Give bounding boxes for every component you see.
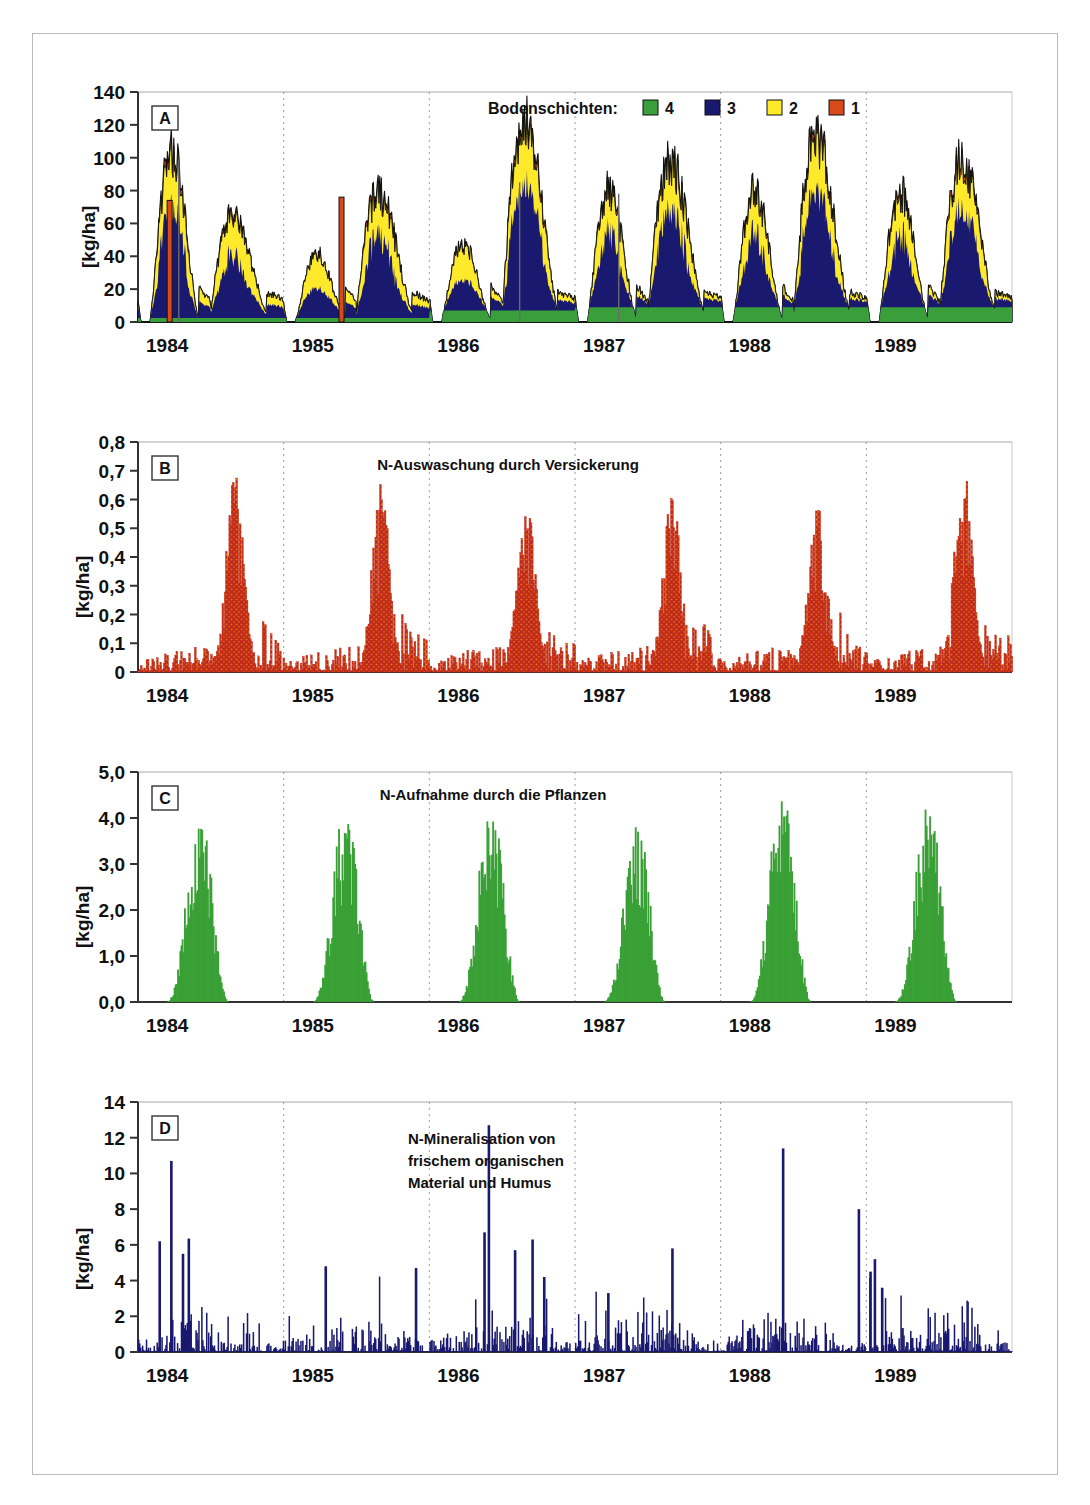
- panel-c: 0,01,02,03,04,05,01984198519861987198819…: [60, 758, 1020, 1038]
- svg-text:1984: 1984: [146, 1365, 189, 1386]
- svg-text:6: 6: [114, 1235, 125, 1256]
- svg-text:1987: 1987: [583, 1015, 625, 1036]
- svg-text:8: 8: [114, 1199, 125, 1220]
- svg-text:1985: 1985: [292, 1015, 335, 1036]
- svg-text:1988: 1988: [729, 685, 771, 706]
- svg-text:2: 2: [789, 100, 798, 117]
- svg-text:1986: 1986: [437, 335, 479, 356]
- svg-text:N-Mineralisation von: N-Mineralisation von: [408, 1130, 556, 1147]
- svg-text:C: C: [159, 790, 171, 807]
- svg-text:1988: 1988: [729, 335, 771, 356]
- svg-text:N-Aufnahme durch die Pflanzen: N-Aufnahme durch die Pflanzen: [380, 786, 607, 803]
- svg-text:20: 20: [104, 279, 125, 300]
- panel-d-ylabel: [kg/ha]: [72, 1228, 94, 1290]
- svg-text:frischem organischen: frischem organischen: [408, 1152, 564, 1169]
- svg-text:Material und Humus: Material und Humus: [408, 1174, 551, 1191]
- svg-text:40: 40: [104, 246, 125, 267]
- svg-text:60: 60: [104, 213, 125, 234]
- panel-a-ylabel: [kg/ha]: [78, 206, 100, 268]
- svg-text:1985: 1985: [292, 1365, 335, 1386]
- svg-text:10: 10: [104, 1163, 125, 1184]
- svg-text:3: 3: [727, 100, 736, 117]
- svg-text:1987: 1987: [583, 1365, 625, 1386]
- panel-b-svg: 00,10,20,30,40,50,60,70,8198419851986198…: [60, 428, 1020, 708]
- svg-text:4: 4: [665, 100, 674, 117]
- svg-text:1989: 1989: [874, 685, 916, 706]
- svg-text:0,1: 0,1: [99, 633, 126, 654]
- panel-a: 0204060801001201401984198519861987198819…: [60, 78, 1020, 358]
- svg-text:2: 2: [114, 1306, 125, 1327]
- svg-text:5,0: 5,0: [99, 762, 125, 783]
- svg-text:1984: 1984: [146, 685, 189, 706]
- svg-text:120: 120: [93, 115, 125, 136]
- panel-d: 02468101214198419851986198719881989DN-Mi…: [60, 1088, 1020, 1388]
- svg-text:1985: 1985: [292, 685, 335, 706]
- svg-text:0,6: 0,6: [99, 490, 125, 511]
- svg-text:A: A: [159, 110, 171, 127]
- panel-c-svg: 0,01,02,03,04,05,01984198519861987198819…: [60, 758, 1020, 1038]
- panel-a-svg: 0204060801001201401984198519861987198819…: [60, 78, 1020, 358]
- svg-text:1989: 1989: [874, 1015, 916, 1036]
- svg-text:1988: 1988: [729, 1015, 771, 1036]
- svg-text:1986: 1986: [437, 1365, 479, 1386]
- figure-page: 0204060801001201401984198519861987198819…: [0, 0, 1090, 1505]
- svg-text:0,5: 0,5: [99, 518, 126, 539]
- svg-text:100: 100: [93, 148, 125, 169]
- svg-text:1986: 1986: [437, 685, 479, 706]
- svg-text:14: 14: [104, 1092, 126, 1113]
- svg-text:1989: 1989: [874, 1365, 916, 1386]
- panel-b: 00,10,20,30,40,50,60,70,8198419851986198…: [60, 428, 1020, 708]
- panel-c-ylabel: [kg/ha]: [72, 886, 94, 948]
- svg-text:140: 140: [93, 82, 125, 103]
- svg-text:0: 0: [114, 1342, 125, 1363]
- svg-text:1,0: 1,0: [99, 946, 125, 967]
- svg-text:1984: 1984: [146, 335, 189, 356]
- svg-text:N-Auswaschung durch Versickeru: N-Auswaschung durch Versickerung: [377, 456, 639, 473]
- svg-text:Bodenschichten:: Bodenschichten:: [488, 100, 618, 117]
- svg-text:0: 0: [114, 662, 125, 683]
- svg-text:0,3: 0,3: [99, 576, 125, 597]
- svg-text:2,0: 2,0: [99, 900, 125, 921]
- panel-d-svg: 02468101214198419851986198719881989DN-Mi…: [60, 1088, 1020, 1388]
- svg-text:0,7: 0,7: [99, 461, 125, 482]
- svg-text:1986: 1986: [437, 1015, 479, 1036]
- svg-text:1985: 1985: [292, 335, 335, 356]
- svg-text:1984: 1984: [146, 1015, 189, 1036]
- svg-text:1989: 1989: [874, 335, 916, 356]
- svg-text:4: 4: [114, 1271, 125, 1292]
- panel-b-ylabel: [kg/ha]: [72, 556, 94, 618]
- svg-text:4,0: 4,0: [99, 808, 125, 829]
- svg-text:0,2: 0,2: [99, 605, 125, 626]
- svg-text:0,0: 0,0: [99, 992, 125, 1013]
- svg-text:0: 0: [114, 312, 125, 333]
- svg-text:3,0: 3,0: [99, 854, 125, 875]
- svg-text:12: 12: [104, 1128, 125, 1149]
- svg-text:1987: 1987: [583, 335, 625, 356]
- svg-text:0,4: 0,4: [99, 547, 126, 568]
- svg-text:1987: 1987: [583, 685, 625, 706]
- svg-text:1988: 1988: [729, 1365, 771, 1386]
- svg-text:D: D: [159, 1120, 171, 1137]
- svg-text:0,8: 0,8: [99, 432, 125, 453]
- svg-text:B: B: [159, 460, 171, 477]
- svg-text:80: 80: [104, 181, 125, 202]
- svg-text:1: 1: [851, 100, 860, 117]
